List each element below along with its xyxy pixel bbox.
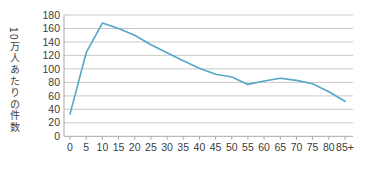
x-tick-label: 55 <box>242 141 254 153</box>
y-tick-label: 100 <box>42 63 60 75</box>
x-tick-label: 40 <box>194 141 206 153</box>
y-tick-label: 80 <box>48 76 60 88</box>
y-tick-label: 0 <box>54 130 60 142</box>
x-tick-label: 25 <box>145 141 157 153</box>
x-tick-label: 5 <box>83 141 89 153</box>
y-tick-label: 40 <box>48 103 60 115</box>
y-tick-label: 60 <box>48 90 60 102</box>
x-tick-label: 30 <box>161 141 173 153</box>
x-tick-label: 0 <box>67 141 73 153</box>
x-tick-label: 75 <box>307 141 319 153</box>
y-tick-label: 140 <box>42 36 60 48</box>
x-tick-label: 10 <box>97 141 109 153</box>
y-tick-label: 20 <box>48 116 60 128</box>
y-tick-label: 180 <box>42 9 60 21</box>
x-tick-label: 20 <box>129 141 141 153</box>
x-tick-label: 65 <box>274 141 286 153</box>
line-chart-figure: 10万人あたりの件数 02040608010012014016018005101… <box>0 0 369 170</box>
x-tick-label: 15 <box>113 141 125 153</box>
x-tick-label: 50 <box>226 141 238 153</box>
y-tick-label: 160 <box>42 22 60 34</box>
line-chart: 0204060801001201401601800510152025303540… <box>0 0 369 170</box>
x-tick-label: 85+ <box>336 141 354 153</box>
x-tick-label: 80 <box>323 141 335 153</box>
y-tick-label: 120 <box>42 49 60 61</box>
x-tick-label: 35 <box>177 141 189 153</box>
x-tick-label: 60 <box>258 141 270 153</box>
x-tick-label: 70 <box>291 141 303 153</box>
x-tick-label: 45 <box>210 141 222 153</box>
